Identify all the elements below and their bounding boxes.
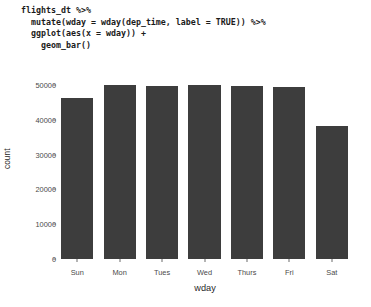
code-line-4: geom_bar() (0, 40, 371, 52)
x-tick-mark (162, 259, 163, 262)
bar-wed (188, 85, 220, 259)
x-axis-title: wday (194, 283, 215, 293)
x-tick-label: Sat (326, 268, 337, 277)
x-tick-mark (204, 259, 205, 262)
code-line-2: mutate(wday = wday(dep_time, label = TRU… (0, 17, 371, 29)
x-tick-label: Wed (197, 268, 212, 277)
code-line-1: flights_dt %>% (0, 5, 371, 17)
y-tick-label: 10000 (0, 220, 56, 229)
y-tick-label: 30000 (0, 150, 56, 159)
x-tick-mark (289, 259, 290, 262)
y-tick-mark (53, 259, 56, 260)
x-tick-label: Fri (285, 268, 294, 277)
x-tick-label: Mon (112, 268, 126, 277)
x-tick-label: Tues (154, 268, 170, 277)
bar-sat (316, 126, 348, 259)
x-tick-mark (246, 259, 247, 262)
bar-thurs (231, 86, 263, 259)
bar-mon (104, 85, 136, 259)
y-tick-label: 20000 (0, 185, 56, 194)
bar-fri (273, 87, 305, 259)
y-tick-mark (53, 154, 56, 155)
y-tick-mark (53, 84, 56, 85)
y-tick-mark (53, 189, 56, 190)
r-code-block: flights_dt %>% mutate(wday = wday(dep_ti… (0, 0, 371, 57)
y-tick-label: 0 (0, 255, 56, 264)
x-tick-label: Thurs (237, 268, 256, 277)
x-tick-label: Sun (71, 268, 84, 277)
plot-panel (56, 78, 353, 259)
y-tick-mark (53, 224, 56, 225)
bar-tues (146, 86, 178, 259)
screenshot-root: flights_dt %>% mutate(wday = wday(dep_ti… (0, 0, 371, 307)
bar-sun (61, 98, 93, 259)
x-tick-mark (119, 259, 120, 262)
y-tick-label: 40000 (0, 115, 56, 124)
y-tick-label: 50000 (0, 80, 56, 89)
y-tick-mark (53, 119, 56, 120)
x-tick-mark (331, 259, 332, 262)
bar-chart: count wday 01000020000300004000050000Sun… (0, 62, 371, 307)
x-tick-mark (77, 259, 78, 262)
code-line-3: ggplot(aes(x = wday)) + (0, 28, 371, 40)
